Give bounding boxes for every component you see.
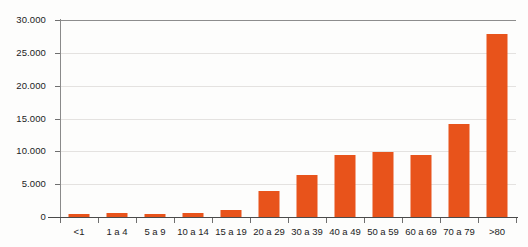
- x-axis-tick-label: 30 a 39: [288, 226, 326, 237]
- y-axis-tick-label: 30.000: [0, 15, 46, 25]
- y-axis-tick-label: 10.000: [0, 146, 46, 156]
- bar: [145, 214, 166, 217]
- x-axis-tick-label: 15 a 19: [212, 226, 250, 237]
- bar-slot: [326, 20, 364, 217]
- bar: [373, 152, 394, 217]
- x-axis-tick: [440, 218, 441, 223]
- x-axis-tick-label: 70 a 79: [440, 226, 478, 237]
- x-axis-tick: [288, 218, 289, 223]
- x-axis-tick-label: 5 a 9: [136, 226, 174, 237]
- x-axis-tick-label: 20 a 29: [250, 226, 288, 237]
- y-axis-tick-label: 0: [0, 212, 46, 222]
- x-axis-tick: [516, 218, 517, 223]
- bar-slot: [288, 20, 326, 217]
- x-axis-tick: [364, 218, 365, 223]
- x-axis-tick: [136, 218, 137, 223]
- y-axis-tick-label: 25.000: [0, 48, 46, 58]
- bar: [411, 155, 432, 217]
- bar: [183, 213, 204, 217]
- x-axis-tick: [250, 218, 251, 223]
- x-axis-tick: [60, 218, 61, 223]
- x-axis-tick: [174, 218, 175, 223]
- x-axis-tick-label: 1 a 4: [98, 226, 136, 237]
- bar-slot: [478, 20, 516, 217]
- bar-slot: [174, 20, 212, 217]
- x-axis-tick: [402, 218, 403, 223]
- bar-chart: 05.00010.00015.00020.00025.00030.000 <11…: [0, 0, 528, 247]
- x-axis-tick-label: 60 a 69: [402, 226, 440, 237]
- bar: [221, 210, 242, 217]
- bar-slot: [250, 20, 288, 217]
- x-axis-tick: [212, 218, 213, 223]
- bar: [259, 191, 280, 217]
- bar: [107, 213, 128, 217]
- x-axis-tick: [478, 218, 479, 223]
- x-axis-tick-label: 50 a 59: [364, 226, 402, 237]
- x-axis-tick-label: 40 a 49: [326, 226, 364, 237]
- bar: [335, 155, 356, 217]
- bar: [69, 214, 90, 217]
- bar-slot: [440, 20, 478, 217]
- bar-slot: [212, 20, 250, 217]
- bar: [487, 34, 508, 217]
- y-axis-tick-label: 20.000: [0, 81, 46, 91]
- bar-slot: [98, 20, 136, 217]
- bar-slot: [136, 20, 174, 217]
- bar-slot: [364, 20, 402, 217]
- y-axis-tick-label: 5.000: [0, 179, 46, 189]
- y-axis-tick-label: 15.000: [0, 114, 46, 124]
- bar-slot: [60, 20, 98, 217]
- bar-series: [60, 20, 516, 217]
- x-axis-tick: [326, 218, 327, 223]
- x-axis-tick: [98, 218, 99, 223]
- x-axis-line: [48, 217, 518, 218]
- bar: [449, 124, 470, 217]
- bar-slot: [402, 20, 440, 217]
- x-axis-tick-label: >80: [478, 226, 516, 237]
- x-axis-tick-label: <1: [60, 226, 98, 237]
- bar: [297, 175, 318, 217]
- x-axis-tick-label: 10 a 14: [174, 226, 212, 237]
